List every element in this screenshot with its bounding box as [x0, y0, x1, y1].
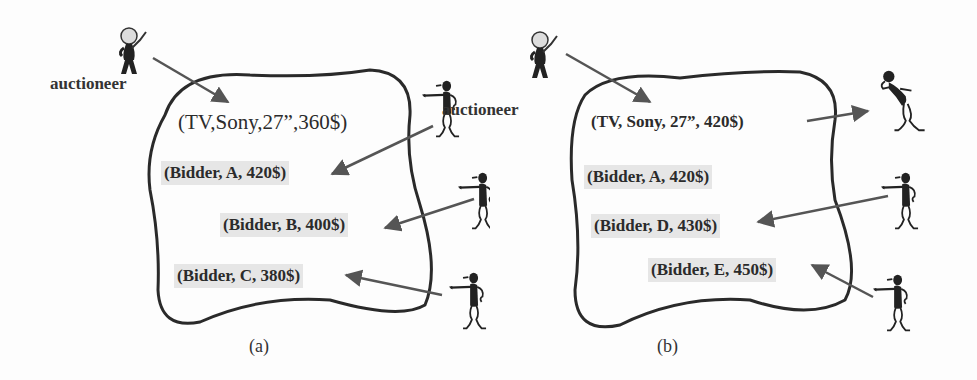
panel-a-graphics	[0, 0, 490, 380]
auction-space-blob	[571, 72, 851, 327]
bid-entry: (Bidder, B, 400$)	[220, 213, 348, 237]
caption-a: (a)	[249, 336, 269, 357]
bid-entry: (Bidder, E, 450$)	[648, 258, 776, 282]
auctioneer-label: auctioneer	[442, 100, 518, 120]
winner-figure-icon	[882, 71, 925, 130]
bid-entry: (Bidder, A, 420$)	[161, 161, 289, 185]
bidder-figure-icon	[458, 173, 490, 229]
bidder-figure-icon	[873, 275, 910, 331]
item-listing: (TV, Sony, 27”, 420$)	[591, 112, 744, 132]
winner-announce-arrow	[807, 111, 868, 121]
panel-b: (TV, Sony, 27”, 420$) (Bidder, A, 420$) …	[490, 0, 977, 380]
bid-entry: (Bidder, C, 380$)	[174, 264, 303, 288]
bid-arrow-e	[812, 265, 873, 297]
bidder-figure-icon	[449, 273, 486, 329]
auctioneer-arrow	[566, 54, 650, 102]
bidder-figure-icon	[881, 173, 918, 229]
panel-a: auctioneer (TV,Sony,27”,360$) (Bidder, A…	[0, 0, 490, 380]
caption-b: (b)	[657, 336, 678, 357]
bid-arrow-b	[385, 199, 474, 228]
bid-arrow-d	[758, 196, 888, 222]
item-listing: (TV,Sony,27”,360$)	[178, 110, 347, 135]
auctioneer-figure-icon	[120, 28, 146, 74]
auctioneer-figure-icon	[531, 32, 557, 78]
auctioneer-label: auctioneer	[50, 74, 126, 94]
bid-arrow-c	[346, 275, 442, 295]
panel-b-graphics	[490, 0, 977, 380]
auctioneer-arrow	[153, 58, 228, 102]
bid-entry: (Bidder, A, 420$)	[584, 165, 712, 189]
bid-entry: (Bidder, D, 430$)	[591, 214, 720, 238]
